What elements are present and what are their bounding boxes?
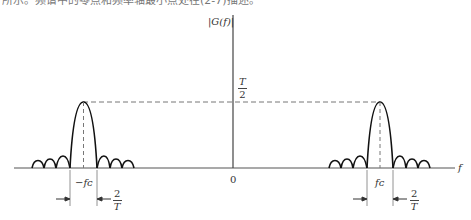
neg-fc-label: −fᴄ: [75, 178, 93, 188]
left-main-lobe-width-label: 2 T: [112, 189, 122, 212]
right-width-arrows: [353, 197, 407, 201]
x-axis-label: f: [458, 163, 462, 173]
peak-level-label: T 2: [237, 77, 248, 100]
left-width-arrows: [56, 197, 111, 201]
right-main-lobe-width-label: 2 T: [409, 189, 419, 212]
y-axis-label: |G(f)|: [208, 17, 234, 27]
origin-label: 0: [230, 175, 236, 185]
pos-fc-label: fᴄ: [375, 178, 384, 188]
spectrum-diagram: [0, 0, 471, 220]
